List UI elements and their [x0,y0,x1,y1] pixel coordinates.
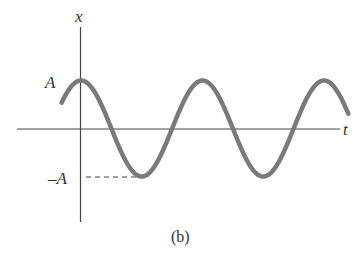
figure-canvas [0,0,359,260]
x-axis-label: t [343,121,348,138]
neg-amplitude-label: –A [48,170,67,187]
y-axis-label: x [75,8,83,25]
amplitude-label: A [45,74,55,91]
figure-caption: (b) [171,229,190,245]
